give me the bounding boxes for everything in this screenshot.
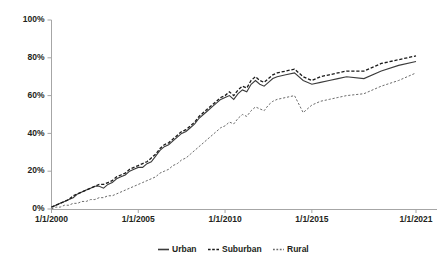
series-group	[52, 56, 417, 209]
legend-item-suburban[interactable]: Suburban	[208, 244, 262, 254]
y-axis: 0%20%40%60%80%100%	[23, 14, 52, 213]
y-tick-label: 20%	[27, 165, 44, 175]
y-tick-label: 100%	[23, 14, 45, 24]
x-tick-label: 1/1/2021	[399, 214, 432, 224]
y-tick-marks	[48, 20, 52, 209]
y-tick-label: 0%	[32, 203, 45, 213]
legend-label: Rural	[287, 244, 309, 254]
legend-label: Urban	[172, 244, 197, 254]
legend-item-rural[interactable]: Rural	[273, 244, 309, 254]
y-tick-label: 40%	[27, 128, 44, 138]
x-tick-label: 1/1/2015	[295, 214, 328, 224]
chart-legend: UrbanSuburbanRural	[158, 244, 309, 254]
chart-canvas: 0%20%40%60%80%100% 1/1/20001/1/20051/1/2…	[0, 0, 444, 267]
x-tick-label: 1/1/2000	[35, 214, 68, 224]
series-line-urban	[52, 62, 417, 208]
line-chart: 0%20%40%60%80%100% 1/1/20001/1/20051/1/2…	[0, 0, 444, 267]
x-tick-label: 1/1/2010	[209, 214, 242, 224]
y-tick-label: 80%	[27, 52, 44, 62]
series-line-rural	[52, 73, 417, 209]
x-axis: 1/1/20001/1/20051/1/20101/1/20151/1/2021	[35, 209, 437, 224]
y-tick-label: 60%	[27, 90, 44, 100]
y-tick-labels: 0%20%40%60%80%100%	[23, 14, 45, 213]
legend-item-urban[interactable]: Urban	[158, 244, 197, 254]
x-tick-label: 1/1/2005	[122, 214, 155, 224]
x-tick-labels: 1/1/20001/1/20051/1/20101/1/20151/1/2021	[35, 214, 433, 224]
legend-label: Suburban	[222, 244, 262, 254]
